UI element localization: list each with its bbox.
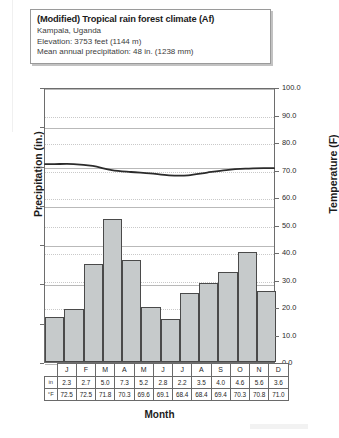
right-axis-tick-mark bbox=[275, 116, 279, 117]
table-cell-temperature: 72.5 bbox=[57, 389, 76, 401]
table-cell-precipitation: 2.7 bbox=[76, 377, 95, 389]
left-axis-title: Precipitation (in.) bbox=[32, 84, 44, 264]
right-axis-tick-mark bbox=[275, 253, 279, 254]
table-cell-month: M bbox=[134, 364, 153, 377]
table-cell-precipitation: 5.0 bbox=[96, 377, 115, 389]
table-cell-month: A bbox=[192, 364, 211, 377]
temperature-line bbox=[45, 89, 274, 362]
left-axis-tick-mark bbox=[40, 88, 44, 89]
table-cell-month: O bbox=[230, 364, 249, 377]
table-cell-temperature: 68.4 bbox=[192, 389, 211, 401]
right-axis-tick-mark bbox=[275, 281, 279, 282]
table-cell-precipitation: 4.6 bbox=[230, 377, 249, 389]
page-scan-artifact bbox=[250, 424, 308, 429]
table-cell-temperature: 72.5 bbox=[76, 389, 95, 401]
right-axis-tick-label: 50.0 bbox=[282, 221, 322, 230]
x-axis-title: Month bbox=[44, 409, 275, 420]
table-cell-temperature: 71.8 bbox=[96, 389, 115, 401]
climate-title: (Modified) Tropical rain forest climate … bbox=[37, 14, 265, 24]
table-row-temperature: °F 72.572.571.870.369.669.168.468.469.47… bbox=[45, 389, 289, 401]
table-cell-precipitation: 7.3 bbox=[115, 377, 134, 389]
right-axis-tick-label: 60.0 bbox=[282, 193, 322, 202]
row-header-precipitation: in bbox=[45, 377, 58, 389]
table-row-precipitation: in 2.32.75.07.35.22.82.23.54.04.65.63.6 bbox=[45, 377, 289, 389]
left-axis-tick-mark bbox=[40, 284, 44, 285]
left-axis-tick-mark bbox=[40, 127, 44, 128]
table-cell-precipitation: 2.3 bbox=[57, 377, 76, 389]
right-axis-tick-label: 100.0 bbox=[282, 83, 322, 92]
table-cell-temperature: 71.0 bbox=[269, 389, 288, 401]
table-cell-temperature: 69.1 bbox=[153, 389, 172, 401]
table-cell-month: M bbox=[96, 364, 115, 377]
table-cell-temperature: 70.8 bbox=[250, 389, 269, 401]
climate-elevation: Elevation: 3753 feet (1144 m) bbox=[37, 37, 265, 48]
table-cell-temperature: 68.4 bbox=[173, 389, 192, 401]
right-axis-tick-mark bbox=[275, 226, 279, 227]
right-axis-title: Temperature (F) bbox=[327, 84, 339, 264]
right-axis-tick-mark bbox=[275, 336, 279, 337]
right-axis-tick-label: 10.0 bbox=[282, 331, 322, 340]
climate-data-table: JFMAMJJASOND in 2.32.75.07.35.22.82.23.5… bbox=[44, 363, 289, 401]
right-axis-tick-mark bbox=[275, 308, 279, 309]
table-cell-precipitation: 3.5 bbox=[192, 377, 211, 389]
table-cell-precipitation: 2.2 bbox=[173, 377, 192, 389]
climate-info-box: (Modified) Tropical rain forest climate … bbox=[30, 9, 271, 64]
page-edge-artifact bbox=[12, 0, 13, 132]
table-cell-precipitation: 3.6 bbox=[269, 377, 288, 389]
table-cell-month: J bbox=[173, 364, 192, 377]
row-header-temperature: °F bbox=[45, 389, 58, 401]
climate-location: Kampala, Uganda bbox=[37, 26, 265, 37]
table-row-months: JFMAMJJASOND bbox=[45, 364, 289, 377]
left-axis-tick-mark bbox=[40, 206, 44, 207]
right-axis-tick-mark bbox=[275, 198, 279, 199]
right-axis-tick-label: 20.0 bbox=[282, 303, 322, 312]
table-cell-precipitation: 4.0 bbox=[211, 377, 230, 389]
table-cell-precipitation: 5.6 bbox=[250, 377, 269, 389]
table-cell-temperature: 70.3 bbox=[115, 389, 134, 401]
table-cell-month: D bbox=[269, 364, 288, 377]
right-axis-tick-label: 70.0 bbox=[282, 166, 322, 175]
right-axis-tick-mark bbox=[275, 143, 279, 144]
table-cell-month: J bbox=[153, 364, 172, 377]
climograph-plot-area bbox=[44, 88, 275, 363]
right-axis-tick-mark bbox=[275, 171, 279, 172]
table-cell-month: J bbox=[57, 364, 76, 377]
table-corner-cell bbox=[45, 364, 58, 377]
right-axis-tick-label: 30.0 bbox=[282, 276, 322, 285]
right-axis-tick-mark bbox=[275, 88, 279, 89]
table-cell-temperature: 69.6 bbox=[134, 389, 153, 401]
left-axis-tick-mark bbox=[40, 324, 44, 325]
right-axis-tick-label: 80.0 bbox=[282, 138, 322, 147]
right-axis-tick-label: 40.0 bbox=[282, 248, 322, 257]
right-axis-tick-label: 90.0 bbox=[282, 111, 322, 120]
table-cell-precipitation: 5.2 bbox=[134, 377, 153, 389]
table-cell-precipitation: 2.8 bbox=[153, 377, 172, 389]
table-cell-month: N bbox=[250, 364, 269, 377]
table-cell-temperature: 69.4 bbox=[211, 389, 230, 401]
left-axis-tick-mark bbox=[40, 167, 44, 168]
table-cell-temperature: 70.3 bbox=[230, 389, 249, 401]
table-cell-month: S bbox=[211, 364, 230, 377]
table-cell-month: F bbox=[76, 364, 95, 377]
table-cell-month: A bbox=[115, 364, 134, 377]
climate-mean-precipitation: Mean annual precipitation: 48 in. (1238 … bbox=[37, 47, 265, 58]
left-axis-tick-mark bbox=[40, 245, 44, 246]
